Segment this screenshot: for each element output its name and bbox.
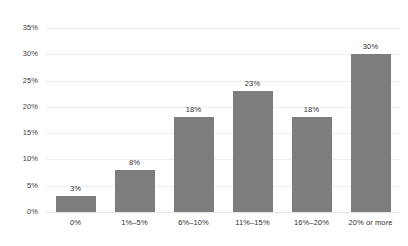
gridline (46, 28, 400, 29)
bar[interactable] (351, 54, 391, 212)
x-axis-tick-label: 20% or more (331, 219, 408, 227)
gridline (46, 133, 400, 134)
bar[interactable] (292, 117, 332, 212)
bar-value-label: 18% (282, 106, 342, 114)
bar-value-label: 30% (341, 43, 401, 51)
gridline (46, 54, 400, 55)
bar-value-label: 8% (105, 159, 165, 167)
gridline (46, 212, 400, 213)
bar-value-label: 3% (46, 185, 106, 193)
bar[interactable] (233, 91, 273, 212)
y-axis-tick-label: 35% (0, 24, 38, 32)
y-axis-tick-label: 25% (0, 77, 38, 85)
y-axis-tick-label: 10% (0, 155, 38, 163)
bar[interactable] (56, 196, 96, 212)
bar-value-label: 18% (164, 106, 224, 114)
bar-chart: 0%5%10%15%20%25%30%35% 3%8%18%23%18%30% … (0, 0, 408, 246)
y-axis-tick-label: 30% (0, 50, 38, 58)
y-axis-tick-label: 15% (0, 129, 38, 137)
bar-value-label: 23% (223, 80, 283, 88)
gridline (46, 159, 400, 160)
y-axis-tick-label: 20% (0, 103, 38, 111)
bar[interactable] (174, 117, 214, 212)
bar[interactable] (115, 170, 155, 212)
y-axis-tick-label: 0% (0, 208, 38, 216)
y-axis-tick-label: 5% (0, 182, 38, 190)
